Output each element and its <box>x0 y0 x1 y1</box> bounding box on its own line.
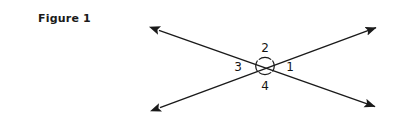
angle-label-4: 4 <box>261 79 269 93</box>
geometry-diagram: 1 2 3 4 <box>0 0 411 123</box>
angle-arc-left <box>256 61 258 72</box>
angle-label-3: 3 <box>234 60 242 74</box>
angle-arc-bottom <box>259 72 271 74</box>
angle-label-1: 1 <box>286 60 294 74</box>
figure-panel: Figure 1 1 2 3 4 <box>0 0 411 123</box>
angle-label-2: 2 <box>261 41 269 55</box>
angle-arc-top <box>259 57 271 59</box>
